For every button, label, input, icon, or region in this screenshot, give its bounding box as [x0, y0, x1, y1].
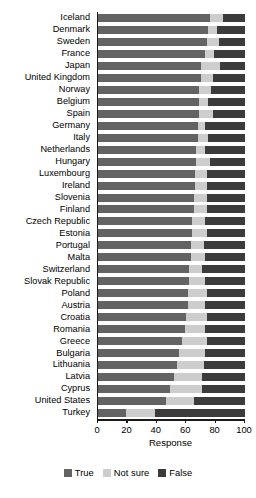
stacked-bar: [98, 38, 245, 46]
bar-row: [98, 335, 245, 347]
y-axis-label: Denmark: [0, 24, 93, 36]
stacked-bar: [98, 217, 245, 225]
bar-segment-not-sure: [208, 26, 217, 34]
y-axis-label: Norway: [0, 84, 93, 96]
stacked-bar: [98, 301, 245, 309]
y-axis-label: Japan: [0, 60, 93, 72]
stacked-bar: [98, 14, 245, 22]
bar-segment-true: [98, 14, 210, 22]
bar-segment-not-sure: [192, 217, 205, 225]
bar-row: [98, 96, 245, 108]
y-axis-label: Greece: [0, 335, 93, 347]
bar-segment-not-sure: [201, 74, 213, 82]
y-axis-label: Netherlands: [0, 144, 93, 156]
x-axis-tick: [156, 419, 157, 423]
stacked-bar: [98, 385, 245, 393]
bar-row: [98, 180, 245, 192]
bar-segment-false: [207, 289, 245, 297]
stacked-bar: [98, 289, 245, 297]
bar-segment-not-sure: [191, 241, 204, 249]
stacked-bar: [98, 62, 245, 70]
bar-segment-false: [211, 86, 245, 94]
y-axis-label: Switzerland: [0, 263, 93, 275]
y-axis-label: Czech Republic: [0, 215, 93, 227]
y-axis-label: France: [0, 48, 93, 60]
bar-segment-not-sure: [199, 110, 212, 118]
legend-label: False: [169, 467, 192, 478]
bar-segment-true: [98, 86, 199, 94]
x-axis-tick: [244, 419, 245, 423]
bar-row: [98, 299, 245, 311]
y-axis-label: Belgium: [0, 96, 93, 108]
bar-segment-false: [205, 301, 245, 309]
bar-segment-false: [207, 194, 245, 202]
bar-segment-not-sure: [196, 146, 205, 154]
legend-item: False: [158, 467, 192, 478]
bar-segment-not-sure: [170, 385, 202, 393]
bar-segment-not-sure: [201, 62, 220, 70]
bar-segment-not-sure: [177, 361, 203, 369]
bar-row: [98, 275, 245, 287]
stacked-bar: [98, 397, 245, 405]
y-axis-label: Luxembourg: [0, 168, 93, 180]
bar-segment-false: [205, 253, 245, 261]
bar-row: [98, 239, 245, 251]
bar-segment-not-sure: [194, 194, 207, 202]
bar-row: [98, 251, 245, 263]
bar-row: [98, 311, 245, 323]
bar-segment-true: [98, 325, 185, 333]
legend-swatch-icon: [64, 469, 72, 477]
legend-item: Not sure: [103, 467, 149, 478]
bar-row: [98, 24, 245, 36]
bar-segment-true: [98, 241, 191, 249]
bar-segment-not-sure: [199, 86, 211, 94]
bar-row: [98, 84, 245, 96]
bar-row: [98, 383, 245, 395]
y-axis-label: Sweden: [0, 36, 93, 48]
bar-segment-not-sure: [199, 98, 208, 106]
stacked-bar: [98, 86, 245, 94]
y-axis-label: Cyprus: [0, 383, 93, 395]
bar-row: [98, 227, 245, 239]
bar-segment-false: [219, 38, 245, 46]
y-axis-label: Slovak Republic: [0, 275, 93, 287]
bar-row: [98, 407, 245, 419]
bar-segment-false: [207, 229, 245, 237]
stacked-bar: [98, 241, 245, 249]
bar-segment-false: [202, 385, 245, 393]
stacked-bar: [98, 146, 245, 154]
y-axis-label: Turkey: [0, 407, 93, 419]
bar-segment-false: [205, 217, 245, 225]
bar-segment-false: [205, 122, 245, 130]
bar-row: [98, 36, 245, 48]
bar-segment-true: [98, 134, 198, 142]
legend-label: Not sure: [114, 467, 149, 478]
bar-segment-false: [217, 26, 245, 34]
bar-segment-false: [194, 397, 245, 405]
stacked-bar: [98, 74, 245, 82]
legend-swatch-icon: [158, 469, 166, 477]
bar-row: [98, 347, 245, 359]
bar-row: [98, 48, 245, 60]
bar-row: [98, 120, 245, 132]
bar-segment-false: [202, 265, 245, 273]
bar-row: [98, 60, 245, 72]
bar-segment-false: [208, 134, 245, 142]
y-axis-label: Hungary: [0, 156, 93, 168]
stacked-bar: [98, 50, 245, 58]
bar-segment-not-sure: [198, 134, 208, 142]
y-axis-label: Bulgaria: [0, 347, 93, 359]
bar-segment-not-sure: [191, 253, 206, 261]
x-axis-tick-label: 0: [94, 424, 99, 435]
bar-segment-true: [98, 146, 196, 154]
bar-row: [98, 323, 245, 335]
stacked-bar: [98, 253, 245, 261]
stacked-bar: [98, 110, 245, 118]
stacked-bar: [98, 122, 245, 130]
bar-row: [98, 263, 245, 275]
bar-segment-not-sure: [186, 313, 207, 321]
y-axis-label: Ireland: [0, 180, 93, 192]
bar-segment-false: [207, 170, 245, 178]
bar-segment-true: [98, 385, 170, 393]
y-axis-label: Austria: [0, 299, 93, 311]
